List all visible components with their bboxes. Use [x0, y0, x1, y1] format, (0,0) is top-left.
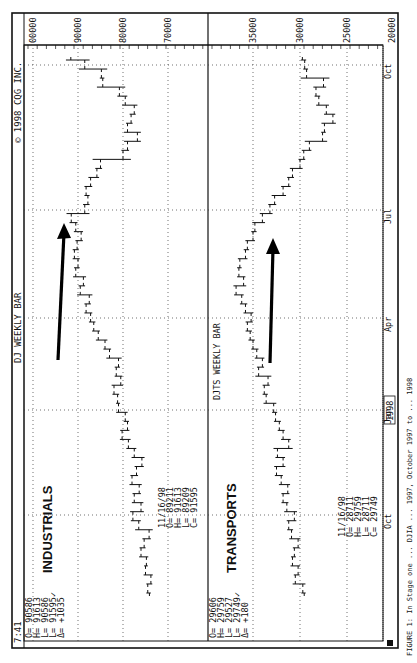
ohlc-bar: [97, 84, 125, 90]
ohlc-bar: [260, 211, 273, 217]
ohlc-bar: [115, 373, 123, 379]
ohlc-bar: [282, 500, 289, 506]
ohlc-bar: [263, 382, 270, 388]
ohlc-bar: [275, 454, 285, 460]
ohlc-bar: [142, 536, 150, 542]
ohlc-bar: [302, 147, 312, 153]
ohlc-bar: [120, 436, 131, 442]
transports-trend-arrow: [266, 238, 280, 363]
ohlc-bar: [293, 581, 306, 587]
ohlc-bar: [246, 319, 253, 325]
ohlc-bar: [121, 147, 129, 153]
x-tick-label: Oct: [383, 514, 393, 529]
ohlc-bar: [234, 292, 244, 298]
ohlc-bar: [281, 183, 291, 189]
ind-quote-4: Δ= +1035: [56, 597, 66, 638]
ohlc-bar: [316, 102, 329, 108]
ohlc-bar: [240, 301, 247, 307]
ohlc-bar: [100, 75, 105, 81]
ohlc-bar: [132, 454, 145, 460]
ohlc-bar: [255, 373, 271, 379]
ohlc-bar: [305, 138, 327, 144]
ohlc-bar: [126, 120, 133, 126]
ohlc-bar: [96, 337, 107, 343]
ohlc-bar: [115, 364, 120, 370]
ohlc-bar: [281, 436, 291, 442]
ohlc-bar: [95, 165, 102, 171]
ohlc-bar: [106, 355, 121, 361]
ohlc-bar: [252, 220, 265, 226]
ohlc-bar: [103, 346, 111, 352]
ohlc-bar: [293, 545, 300, 551]
ohlc-bar: [140, 545, 146, 551]
ohlc-bar: [73, 274, 86, 280]
rotated-chart-stage: 7:41 DJ WEEKLY BAR © 1998 CQG INC. OctJa…: [0, 0, 417, 663]
ohlc-bar: [290, 165, 303, 171]
ohlc-bar: [303, 66, 308, 72]
ohlc-bar: [313, 84, 326, 90]
ohlc-bar: [112, 382, 123, 388]
arrow-head-icon: [266, 238, 280, 254]
ohlc-bar: [130, 111, 136, 117]
ohlc-bar: [135, 527, 153, 533]
ohlc-bar: [237, 274, 245, 280]
ohlc-bar: [238, 256, 248, 262]
year-label: 1998: [385, 401, 395, 421]
ohlc-bar: [89, 319, 95, 325]
transports-label: TRANSPORTS: [224, 483, 239, 573]
ohlc-bar: [124, 129, 141, 135]
header-time: 7:41: [13, 621, 23, 643]
ohlc-bar: [287, 174, 294, 180]
ohlc-bar: [122, 102, 137, 108]
ohlc-bar: [264, 400, 277, 406]
trn-quote-4: Δ= +180: [240, 602, 250, 638]
figure-caption: FIGURE 1: In Stage one ... DJIA ... 1997…: [403, 4, 415, 659]
y-tick-label: 25000: [342, 17, 352, 43]
ohlc-bar: [321, 120, 335, 126]
ohlc-bar: [146, 581, 152, 587]
ohlc-bar: [301, 57, 306, 63]
y-tick-label: 30000: [295, 17, 305, 43]
ohlc-bar: [74, 265, 80, 271]
ohlc-bar: [274, 418, 281, 424]
ohlc-bar: [120, 427, 129, 433]
ohlc-bar: [287, 527, 293, 533]
ohlc-bar: [130, 509, 144, 515]
dj-weekly-bar-chart: 7:41 DJ WEEKLY BAR © 1998 CQG INC. OctJa…: [0, 0, 417, 663]
ohlc-bar: [244, 310, 254, 316]
ohlc-bar: [315, 93, 321, 99]
ohlc-bar: [77, 292, 92, 298]
ohlc-bar: [146, 590, 150, 596]
ohlc-bar: [284, 509, 297, 515]
ohlc-bar: [124, 418, 129, 424]
ohlc-bar: [291, 563, 301, 569]
ohlc-bar: [237, 265, 242, 271]
ohlc-bar: [83, 202, 89, 208]
ohlc-bar: [129, 482, 141, 488]
industrials-quote-block: O= 90586 H= 91613 L= 90586 L= 91595✓ Δ= …: [24, 592, 66, 638]
ohlc-bar: [73, 247, 79, 253]
ohlc-bar: [88, 174, 99, 180]
ohlc-bar: [92, 328, 100, 334]
transports-date-box: 11/16/98 O= 28711 H= 29759 L= 28711 C= 2…: [337, 496, 379, 537]
caption-text: FIGURE 1: In Stage one ... DJIA ... 1997…: [406, 378, 414, 656]
ohlc-bar: [248, 337, 254, 343]
ohlc-bar: [130, 473, 138, 479]
header-copyright: © 1998 CQG INC.: [13, 62, 23, 143]
ohlc-bar: [321, 129, 326, 135]
transports-quote-block: O= 29606 H= 29759 L= 29527 L= 29749✓ Δ= …: [208, 592, 250, 638]
ohlc-bar: [84, 301, 90, 307]
ohlc-bar: [126, 445, 136, 451]
ohlc-bar: [324, 111, 335, 117]
ohlc-bar: [255, 355, 265, 361]
ohlc-bar: [268, 202, 276, 208]
x-tick-label: Apr: [383, 317, 393, 332]
y-tick-label: 35000: [248, 17, 258, 43]
ohlc-bar: [117, 93, 127, 99]
ind-date-c: C= 91595: [189, 487, 199, 528]
ohlc-bar: [251, 346, 258, 352]
ohlc-bar: [294, 572, 300, 578]
trn-date-c: C= 29749: [369, 496, 379, 537]
x-tick-label: Oct: [383, 64, 393, 79]
ohlc-bar: [246, 328, 252, 334]
